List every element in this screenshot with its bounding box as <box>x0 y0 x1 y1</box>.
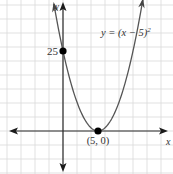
equation-base: y = (x − 5) <box>100 27 148 39</box>
vertex-point <box>94 127 101 134</box>
parabola-curve <box>54 0 143 131</box>
x-axis-label: x <box>165 136 171 147</box>
x-axis <box>9 128 168 135</box>
parabola-chart: 25 (5, 0) x y y = (x − 5)2 <box>0 0 173 174</box>
y-intercept-point <box>59 47 66 54</box>
equation-exponent: 2 <box>147 26 151 34</box>
vertex-label: (5, 0) <box>87 135 110 147</box>
y-axis <box>60 2 67 172</box>
y-intercept-label: 25 <box>47 45 59 57</box>
equation-label: y = (x − 5)2 <box>100 26 151 39</box>
y-axis-label: y <box>54 1 59 11</box>
